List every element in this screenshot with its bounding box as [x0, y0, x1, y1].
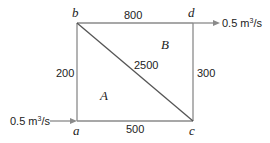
- outflow-label: 0.5 m3/s: [222, 17, 262, 29]
- node-a: a: [73, 124, 80, 137]
- node-b: b: [72, 6, 79, 19]
- pipe-ab-length: 200: [56, 68, 74, 79]
- pipe-ac-length: 500: [126, 124, 144, 135]
- outflow-arrow-head: [213, 20, 220, 26]
- inflow-label: 0.5 m3/s: [10, 115, 50, 127]
- pipe-dc-length: 300: [197, 68, 215, 79]
- node-d: d: [188, 6, 195, 19]
- node-c: c: [189, 124, 195, 137]
- loop-a-label: A: [100, 89, 108, 102]
- pipe-bc: [77, 23, 193, 121]
- pipe-bc-length: 2500: [134, 60, 158, 71]
- pipe-bd-length: 800: [124, 10, 142, 21]
- loop-b-label: B: [161, 38, 169, 51]
